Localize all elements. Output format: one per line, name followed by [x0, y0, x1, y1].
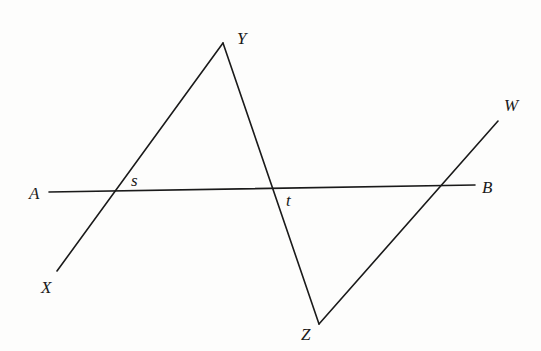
label-w: W: [504, 96, 520, 115]
label-y: Y: [237, 29, 248, 48]
label-a: A: [28, 184, 40, 203]
segment-yz: [223, 43, 319, 324]
label-z: Z: [301, 325, 311, 344]
label-s: s: [131, 171, 138, 190]
label-x: X: [40, 278, 52, 297]
segment-xy: [57, 43, 223, 271]
label-b: B: [482, 178, 493, 197]
segment-zw: [319, 121, 498, 324]
geometry-diagram: Y W A s t B X Z: [0, 0, 541, 351]
segment-ab: [49, 185, 475, 192]
label-t: t: [286, 191, 292, 210]
